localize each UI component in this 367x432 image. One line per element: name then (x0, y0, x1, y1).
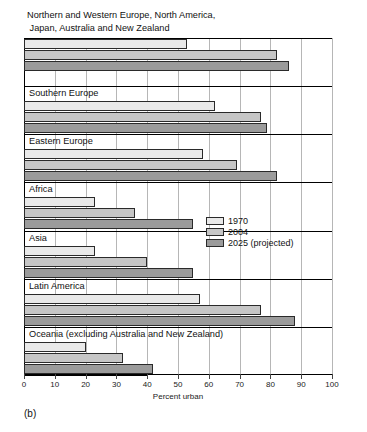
bar (24, 246, 95, 256)
bar (24, 268, 193, 278)
x-tick-10 (55, 374, 56, 379)
chart-legend: 1970 2004 2025 (projected) (206, 216, 294, 249)
legend-swatch-2025 (206, 239, 224, 247)
x-tick-80 (270, 374, 271, 379)
bar (24, 294, 200, 304)
x-tick-30 (116, 374, 117, 379)
x-tick-label-40: 40 (143, 380, 152, 389)
group-label: Latin America (29, 281, 85, 292)
group-label: Southern Europe (29, 88, 98, 99)
gridline-90 (301, 38, 302, 375)
x-tick-label-10: 10 (50, 380, 59, 389)
bar (24, 197, 95, 207)
panel-label: (b) (24, 408, 36, 419)
x-tick-60 (209, 374, 210, 379)
plot-area: Southern EuropeEastern EuropeAfricaAsiaL… (24, 38, 332, 375)
bar (24, 305, 261, 315)
chart-title: Northern and Western Europe, North Ameri… (27, 9, 215, 34)
bar (24, 149, 203, 159)
x-tick-label-20: 20 (81, 380, 90, 389)
bar (24, 364, 153, 374)
bar (24, 257, 147, 267)
legend-item-2025: 2025 (projected) (206, 238, 294, 248)
bar (24, 112, 261, 122)
bar (24, 50, 277, 60)
x-tick-label-30: 30 (112, 380, 121, 389)
legend-swatch-2004 (206, 228, 224, 236)
x-tick-label-0: 0 (22, 380, 26, 389)
legend-label-1970: 1970 (228, 216, 248, 226)
group-label: Eastern Europe (29, 136, 93, 147)
legend-label-2025: 2025 (projected) (228, 238, 294, 248)
bar-chart: Northern and Western Europe, North Ameri… (0, 0, 367, 432)
group-separator (24, 134, 332, 135)
x-tick-label-70: 70 (235, 380, 244, 389)
bar (24, 123, 267, 133)
bar (24, 61, 289, 71)
x-tick-0 (24, 374, 25, 379)
group-separator (24, 327, 332, 328)
x-tick-50 (178, 374, 179, 379)
x-tick-label-80: 80 (266, 380, 275, 389)
bar (24, 160, 237, 170)
legend-item-1970: 1970 (206, 216, 294, 226)
x-tick-90 (301, 374, 302, 379)
bar (24, 39, 187, 49)
x-tick-70 (240, 374, 241, 379)
group-label: Oceania (excluding Australia and New Zea… (29, 329, 223, 340)
legend-label-2004: 2004 (228, 227, 248, 237)
bar (24, 101, 215, 111)
bar (24, 316, 295, 326)
group-separator (24, 182, 332, 183)
group-separator (24, 86, 332, 87)
x-tick-40 (147, 374, 148, 379)
gridline-100 (332, 38, 333, 375)
legend-item-2004: 2004 (206, 227, 294, 237)
bar (24, 219, 193, 229)
x-tick-label-100: 100 (325, 380, 338, 389)
x-tick-label-90: 90 (297, 380, 306, 389)
x-tick-100 (332, 374, 333, 379)
x-tick-label-60: 60 (204, 380, 213, 389)
bar (24, 353, 123, 363)
x-tick-20 (86, 374, 87, 379)
group-label: Asia (29, 233, 47, 244)
group-label: Africa (29, 184, 53, 195)
bar (24, 208, 135, 218)
bar (24, 342, 86, 352)
x-axis-title: Percent urban (153, 392, 203, 401)
x-tick-label-50: 50 (174, 380, 183, 389)
legend-swatch-1970 (206, 217, 224, 225)
bar (24, 171, 277, 181)
